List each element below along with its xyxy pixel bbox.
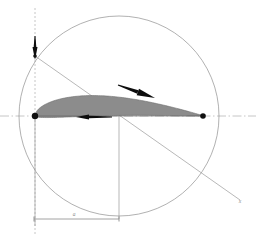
leading-edge-point — [32, 113, 38, 119]
diagram-labels: x — [238, 198, 242, 204]
axis-origin-point — [33, 54, 37, 58]
ray-end-label: x — [238, 198, 242, 204]
diagram-canvas: a x — [0, 0, 256, 241]
dimension-label: a — [73, 211, 76, 217]
airfoil-diagram-svg: a x — [0, 0, 256, 241]
background — [0, 0, 256, 241]
trailing-edge-point — [200, 113, 206, 119]
